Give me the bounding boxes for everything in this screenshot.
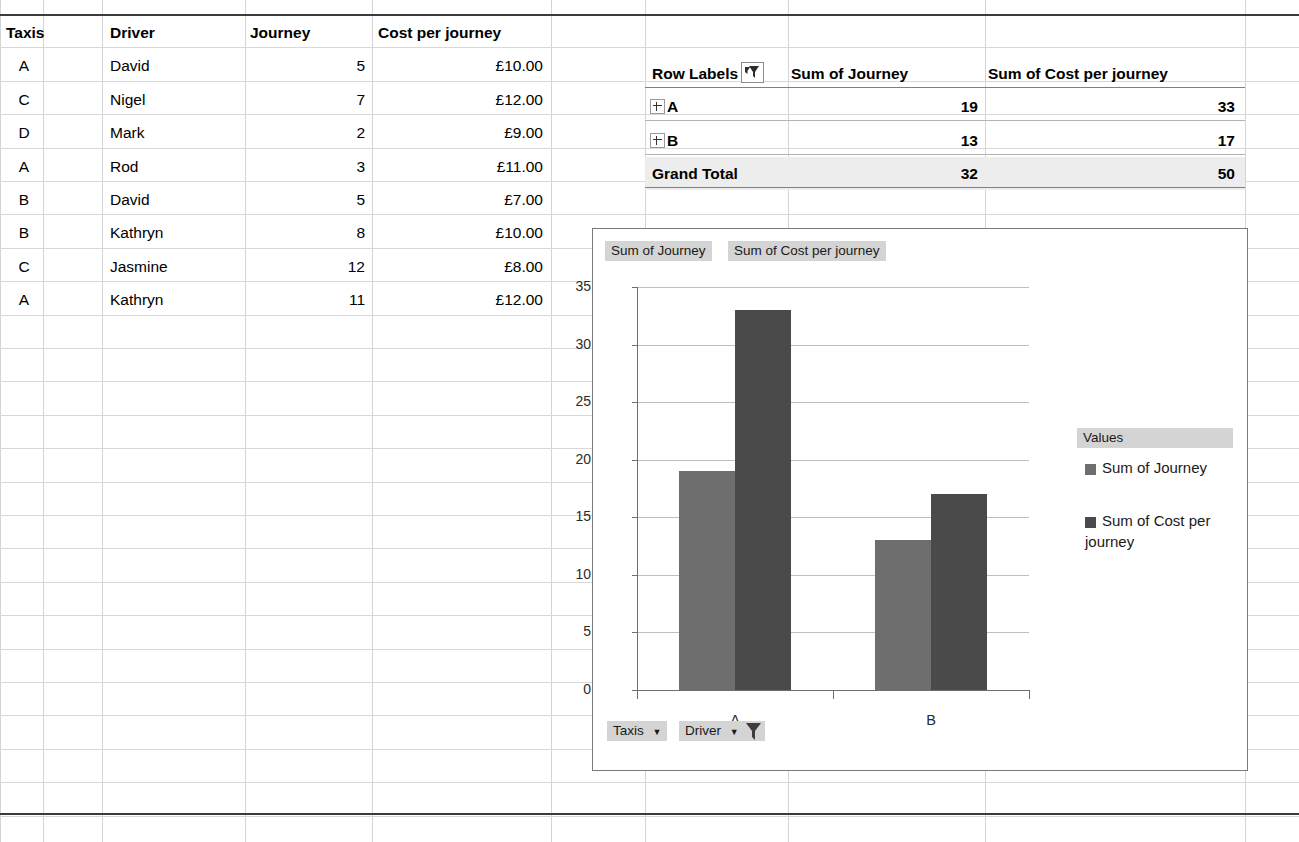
x-axis-category-label: B — [833, 712, 1029, 728]
source-table-cell[interactable]: £10.00 — [378, 217, 543, 249]
chevron-down-icon: ▼ — [653, 727, 662, 737]
source-table-cell[interactable]: C — [6, 84, 42, 116]
source-table-cell[interactable]: D — [6, 117, 42, 149]
x-axis-tick-mark — [833, 690, 834, 699]
legend-swatch-series1 — [1085, 464, 1096, 475]
source-table-cell[interactable]: Kathryn — [110, 284, 240, 316]
pivot-row-label-text: B — [667, 132, 678, 149]
source-table-cell[interactable]: £7.00 — [378, 184, 543, 216]
chart-field-button-sum-of-cost-per-journey[interactable]: Sum of Cost per journey — [728, 241, 886, 261]
pivot-header-row-labels: Row Labels — [652, 57, 767, 90]
pivot-header-sum-of-cost-per-journey: Sum of Cost per journey — [988, 57, 1168, 90]
pivot-grand-total-journey: 32 — [788, 157, 978, 190]
chart-field-button-sum-of-journey[interactable]: Sum of Journey — [605, 241, 712, 261]
source-table-cell[interactable]: David — [110, 184, 240, 216]
source-table-cell[interactable]: 11 — [250, 284, 365, 316]
expand-plus-icon[interactable] — [650, 133, 665, 148]
source-table-cell[interactable]: Kathryn — [110, 217, 240, 249]
source-table-cell[interactable]: £10.00 — [378, 50, 543, 82]
pivot-value-journey[interactable]: 19 — [788, 90, 978, 123]
source-table-cell[interactable]: A — [6, 50, 42, 82]
y-gridline — [637, 345, 1029, 346]
y-axis-tick-label: 35 — [551, 280, 591, 292]
source-table-header: Cost per journey — [378, 17, 543, 49]
pivot-grand-total-label: Grand Total — [652, 157, 738, 190]
pivot-row-label[interactable]: B — [650, 124, 678, 157]
y-axis-tick-label: 15 — [551, 510, 591, 522]
expand-plus-icon[interactable] — [650, 99, 665, 114]
pivot-header-sum-of-journey: Sum of Journey — [791, 57, 908, 90]
chevron-down-icon: ▼ — [730, 727, 739, 737]
source-table-cell[interactable]: 7 — [250, 84, 365, 116]
pivot-value-cost[interactable]: 17 — [985, 124, 1235, 157]
y-axis-tick-label: 20 — [551, 453, 591, 465]
source-table-cell[interactable]: 8 — [250, 217, 365, 249]
y-axis-tick-label: 0 — [551, 683, 591, 695]
bar-A-series2[interactable] — [735, 310, 791, 690]
y-gridline — [637, 402, 1029, 403]
source-table-cell[interactable]: Mark — [110, 117, 240, 149]
legend-swatch-series2 — [1085, 517, 1096, 528]
chart-axis-button-driver[interactable]: Driver ▼ — [679, 721, 765, 741]
bar-B-series1[interactable] — [875, 540, 931, 690]
source-table-cell[interactable]: C — [6, 251, 42, 283]
filter-funnel-icon — [745, 722, 762, 741]
source-table-cell[interactable]: 12 — [250, 251, 365, 283]
source-table-cell[interactable]: B — [6, 184, 42, 216]
chart-axis-button-driver-label: Driver — [685, 723, 721, 738]
source-table-header: Driver — [110, 17, 240, 49]
chart-axis-button-taxis-label: Taxis — [613, 723, 644, 738]
source-table-cell[interactable]: A — [6, 151, 42, 183]
y-axis-tick-label: 25 — [551, 395, 591, 407]
y-axis-tick-label: 5 — [551, 625, 591, 637]
grid-row-line — [0, 14, 1299, 16]
pivot-value-cost[interactable]: 33 — [985, 90, 1235, 123]
source-table-cell[interactable]: A — [6, 284, 42, 316]
pivot-value-journey[interactable]: 13 — [788, 124, 978, 157]
pivot-row-label[interactable]: A — [650, 90, 678, 123]
plot-area: 05101520253035AB — [637, 287, 1029, 690]
source-table-cell[interactable]: £12.00 — [378, 284, 543, 316]
pivot-row-label-text: A — [667, 98, 678, 115]
pivot-header-row-labels-text: Row Labels — [652, 65, 738, 82]
bar-B-series2[interactable] — [931, 494, 987, 690]
chart-axis-button-taxis[interactable]: Taxis ▼ — [607, 721, 667, 741]
y-axis-line — [637, 287, 638, 690]
x-axis-tick-mark — [637, 690, 638, 699]
grid-row-line — [0, 782, 1299, 783]
grid-row-line — [0, 813, 1299, 815]
y-axis-tick-label: 30 — [551, 338, 591, 350]
pivot-chart[interactable]: Sum of Journey Sum of Cost per journey 0… — [592, 228, 1248, 771]
y-gridline — [637, 287, 1029, 288]
source-table-cell[interactable]: 5 — [250, 50, 365, 82]
legend-header[interactable]: Values — [1077, 428, 1233, 448]
source-table-cell[interactable]: B — [6, 217, 42, 249]
source-table-cell[interactable]: Rod — [110, 151, 240, 183]
filter-funnel-icon[interactable] — [741, 62, 764, 83]
source-table-cell[interactable]: £9.00 — [378, 117, 543, 149]
legend-entry-sum-of-journey: Sum of Journey — [1085, 457, 1245, 478]
bar-A-series1[interactable] — [679, 471, 735, 690]
y-gridline — [637, 460, 1029, 461]
source-table-cell[interactable]: 5 — [250, 184, 365, 216]
source-table-cell[interactable]: £8.00 — [378, 251, 543, 283]
pivot-grand-total-cost: 50 — [985, 157, 1235, 190]
source-table-cell[interactable]: Nigel — [110, 84, 240, 116]
source-table-cell[interactable]: David — [110, 50, 240, 82]
legend-label-series2: Sum of Cost per journey — [1085, 512, 1210, 550]
source-table-cell[interactable]: Jasmine — [110, 251, 240, 283]
source-table-cell[interactable]: £12.00 — [378, 84, 543, 116]
source-table-cell[interactable]: 3 — [250, 151, 365, 183]
source-table-header: Taxis — [6, 17, 42, 49]
y-axis-tick-label: 10 — [551, 568, 591, 580]
source-table-cell[interactable]: £11.00 — [378, 151, 543, 183]
x-axis-tick-mark — [1029, 690, 1030, 699]
grid-row-line — [0, 816, 1299, 817]
legend-entry-sum-of-cost-per-journey: Sum of Cost per journey — [1085, 510, 1235, 552]
source-table-header: Journey — [250, 17, 365, 49]
source-table-cell[interactable]: 2 — [250, 117, 365, 149]
legend-label-series1: Sum of Journey — [1102, 459, 1207, 476]
